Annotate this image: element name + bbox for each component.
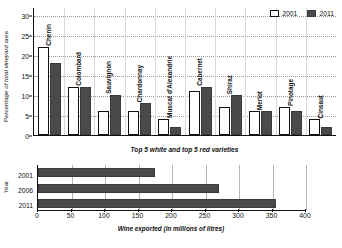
bottom-chart-y-axis-label: Year [3,167,9,207]
bottom-chart-x-tick: 50 [67,212,75,219]
bar-2001[interactable] [219,107,230,135]
bar-2001[interactable] [309,119,320,135]
bottom-chart-x-tick-labels: 050100150200250300350400 [37,212,305,224]
bar-group[interactable]: Cinsaut [306,8,336,135]
variety-label: Muscat d'Alexandrie [167,56,173,118]
top-chart-y-tick-mark [29,136,32,137]
bar-2011[interactable] [170,127,181,135]
variety-label: Chenin [46,24,52,46]
bar-2001[interactable] [128,111,139,135]
top-chart-y-tick: 30 [21,13,29,20]
bar-group[interactable]: Merlot [245,8,275,135]
bottom-chart-x-tick: 300 [232,212,243,219]
top-chart-legend: 2001 2011 [270,10,334,17]
variety-label: Sauvignon [106,61,112,94]
top-chart-y-tick-mark [29,116,32,117]
bottom-chart-x-tick-mark [138,209,139,212]
export-bar[interactable] [38,199,276,208]
bottom-chart-x-axis-caption: Wine exported (in millions of litres) [37,225,305,232]
bar-2011[interactable] [321,127,332,135]
bar-group[interactable]: Chardonnay [125,8,155,135]
bar-2001[interactable] [189,91,200,135]
bottom-chart-x-tick: 100 [98,212,109,219]
bar-2001[interactable] [68,87,79,135]
legend-label-2001: 2001 [282,10,297,17]
export-bar[interactable] [38,184,219,193]
legend-item-2011: 2011 [307,10,334,17]
bar-2011[interactable] [231,95,242,135]
top-chart-y-axis-label-text: Percentage of total vineyard area [2,31,9,122]
wine-statistics-figure: Percentage of total vineyard area 302520… [0,0,342,248]
bottom-chart-x-tick-mark [71,209,72,212]
vineyard-area-bar-chart: Percentage of total vineyard area 302520… [0,0,342,160]
legend-swatch-2001-icon [270,10,279,17]
top-chart-y-tick: 10 [21,93,29,100]
bottom-chart-x-tick: 150 [132,212,143,219]
bottom-chart-year-label: 2011 [18,202,33,209]
top-chart-y-tick-mark [29,16,32,17]
bar-group[interactable]: Sauvignon [94,8,124,135]
bar-2011[interactable] [201,87,212,135]
top-chart-y-tick-mark [29,76,32,77]
bottom-chart-x-tick-mark [205,209,206,212]
variety-label: Colombard [76,52,82,86]
top-chart-bar-groups: CheninColombardSauvignonChardonnayMuscat… [34,8,336,135]
top-chart-y-axis-label: Percentage of total vineyard area [2,18,9,136]
bar-2011[interactable] [50,63,61,135]
variety-label: Cinsaut [318,95,324,118]
bar-2011[interactable] [261,111,272,135]
bar-2001[interactable] [158,119,169,135]
bar-2011[interactable] [140,103,151,135]
bar-group[interactable]: Colombard [64,8,94,135]
variety-label: Merlot [257,91,263,110]
bar-2001[interactable] [38,47,49,135]
export-bar[interactable] [38,168,155,177]
legend-label-2011: 2011 [319,10,334,17]
bar-2011[interactable] [80,87,91,135]
bar-group[interactable]: Chenin [34,8,64,135]
bottom-chart-x-tick: 200 [165,212,176,219]
top-chart-plot-area: CheninColombardSauvignonChardonnayMuscat… [33,8,336,136]
bottom-chart-x-tick-mark [171,209,172,212]
bar-2011[interactable] [110,95,121,135]
bar-2001[interactable] [249,111,260,135]
variety-label: Cabernet [197,58,203,86]
top-chart-y-tick-mark [29,96,32,97]
bar-group[interactable]: Muscat d'Alexandrie [155,8,185,135]
top-chart-y-tick-mark [29,36,32,37]
bottom-chart-x-tick-mark [272,209,273,212]
variety-label: Chardonnay [137,65,143,102]
bottom-chart-year-label: 2006 [18,187,33,194]
bar-group[interactable]: Cabernet [185,8,215,135]
wine-export-bar-chart: Year 200120062011 0501001502002503003504… [0,163,342,248]
bar-2011[interactable] [291,111,302,135]
top-chart-y-tick: 25 [21,33,29,40]
legend-item-2001: 2001 [270,10,297,17]
bar-group[interactable]: Shiraz [215,8,245,135]
variety-label: Pinotage [288,79,294,106]
bottom-chart-x-tick-mark [37,209,38,212]
top-chart-y-tick-labels: 302520151050 [12,8,32,136]
legend-swatch-2011-icon [307,10,316,17]
variety-label: Shiraz [227,75,233,94]
bar-2001[interactable] [98,111,109,135]
bottom-chart-x-tick-mark [305,209,306,212]
bar-2001[interactable] [279,107,290,135]
top-chart-x-axis-caption: Top 5 white and top 5 red varieties [33,146,336,153]
bottom-chart-gridline [306,165,307,210]
bottom-chart-x-tick: 0 [35,212,39,219]
bottom-chart-y-tick-labels: 200120062011 [11,165,35,211]
bottom-chart-x-tick: 350 [266,212,277,219]
top-chart-y-tick: 15 [21,73,29,80]
top-chart-y-tick-mark [29,56,32,57]
bottom-chart-year-label: 2001 [18,171,33,178]
bottom-chart-y-axis-label-text: Year [3,181,9,193]
top-chart-y-tick: 20 [21,53,29,60]
bottom-chart-x-tick-mark [104,209,105,212]
bottom-chart-x-tick: 400 [299,212,310,219]
bottom-chart-x-tick: 250 [199,212,210,219]
bottom-chart-plot-area [37,165,305,211]
bottom-chart-x-tick-mark [238,209,239,212]
bar-group[interactable]: Pinotage [276,8,306,135]
